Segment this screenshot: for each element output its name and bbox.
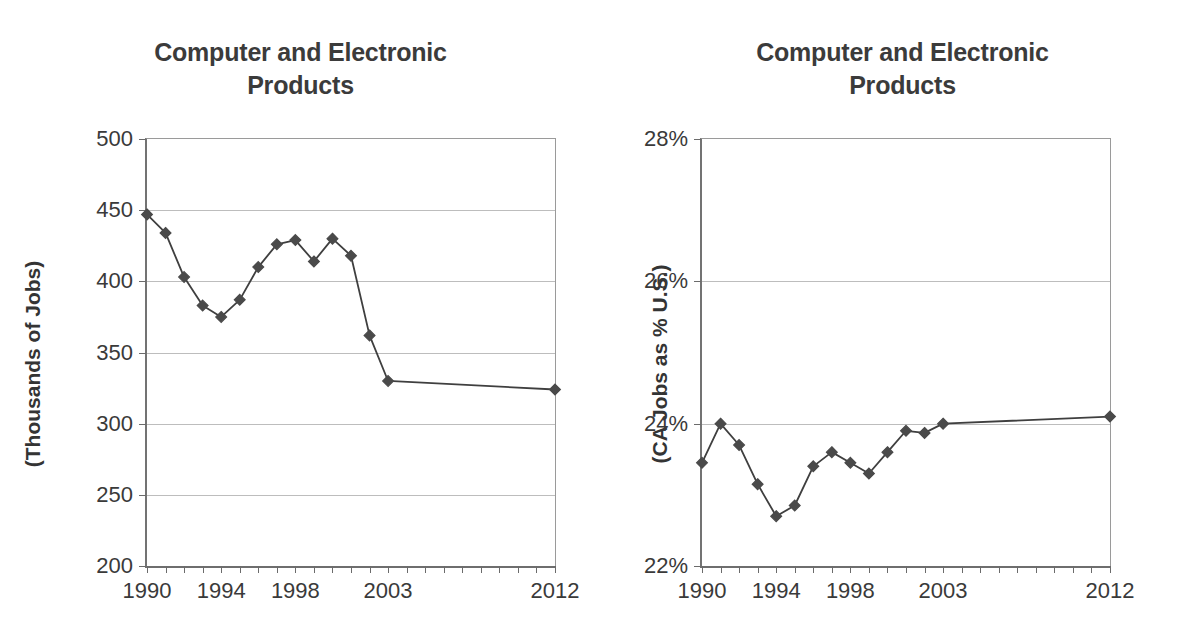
- x-axis-tick: [332, 566, 333, 573]
- x-axis-tick: [444, 566, 445, 573]
- chart-title-share-line2: Products: [602, 69, 1203, 102]
- x-axis-tick: [832, 566, 833, 573]
- x-axis-tick: [499, 566, 500, 573]
- y-axis-tick-label: 26%: [644, 270, 688, 292]
- y-axis-tick: [139, 281, 146, 282]
- chart-title-jobs-line2: Products: [0, 69, 601, 102]
- data-point-marker: [1105, 411, 1116, 422]
- y-axis-tick-label: 22%: [644, 555, 688, 577]
- x-axis-tick: [277, 566, 278, 573]
- x-axis-tick: [221, 566, 222, 573]
- x-axis-tick: [1054, 566, 1055, 573]
- data-point-marker: [919, 428, 930, 439]
- y-axis-tick: [694, 424, 701, 425]
- x-axis-tick: [813, 566, 814, 573]
- x-axis-tick: [702, 566, 703, 573]
- x-axis-tick-label: 1994: [197, 580, 246, 602]
- x-axis-tick: [258, 566, 259, 573]
- x-axis-tick: [351, 566, 352, 573]
- x-axis-tick: [407, 566, 408, 573]
- chart-title-share: Computer and Electronic Products: [602, 36, 1203, 102]
- data-series-share: [702, 139, 1110, 566]
- data-point-marker: [179, 272, 190, 283]
- x-axis-tick: [147, 566, 148, 573]
- x-axis-tick: [240, 566, 241, 573]
- data-point-marker: [771, 511, 782, 522]
- y-axis-tick-label: 300: [96, 413, 133, 435]
- x-axis-tick: [1110, 566, 1111, 573]
- x-axis-tick: [887, 566, 888, 573]
- y-axis-tick-label: 400: [96, 270, 133, 292]
- x-axis-tick: [462, 566, 463, 573]
- x-axis-tick: [388, 566, 389, 573]
- x-axis-tick: [776, 566, 777, 573]
- x-axis-tick-label: 2003: [919, 580, 968, 602]
- y-axis-tick: [139, 424, 146, 425]
- x-axis-tick: [555, 566, 556, 573]
- x-axis-tick: [1091, 566, 1092, 573]
- y-axis-tick-label: 350: [96, 342, 133, 364]
- x-axis-tick: [943, 566, 944, 573]
- y-axis-tick-label: 24%: [644, 413, 688, 435]
- figure-page: Computer and Electronic Products (Thousa…: [0, 0, 1203, 638]
- y-axis-tick: [694, 566, 701, 567]
- x-axis-tick: [536, 566, 537, 573]
- y-axis-tick-label: 250: [96, 484, 133, 506]
- data-point-marker: [938, 418, 949, 429]
- x-axis-tick: [184, 566, 185, 573]
- x-axis-tick: [166, 566, 167, 573]
- data-point-marker: [697, 457, 708, 468]
- x-axis-tick: [739, 566, 740, 573]
- data-point-marker: [550, 384, 561, 395]
- chart-title-jobs: Computer and Electronic Products: [0, 36, 601, 102]
- y-axis-tick: [139, 353, 146, 354]
- x-axis-tick: [795, 566, 796, 573]
- plot-area-share: 22%24%26%28%19901994199820032012: [700, 138, 1111, 568]
- y-axis-label-jobs: (Thousands of Jobs): [21, 234, 45, 494]
- data-point-marker: [383, 376, 394, 387]
- y-axis-label-share: (CA Jobs as % U.S.): [648, 214, 672, 514]
- y-axis-tick-label: 450: [96, 199, 133, 221]
- x-axis-tick: [962, 566, 963, 573]
- x-axis-tick: [425, 566, 426, 573]
- y-axis-tick-label: 500: [96, 128, 133, 150]
- x-axis-tick: [1073, 566, 1074, 573]
- x-axis-tick: [295, 566, 296, 573]
- chart-title-jobs-line1: Computer and Electronic: [0, 36, 601, 69]
- x-axis-tick: [481, 566, 482, 573]
- data-point-marker: [197, 300, 208, 311]
- data-point-marker: [752, 479, 763, 490]
- x-axis-tick-label: 1994: [752, 580, 801, 602]
- plot-area-jobs: 2002503003504004505001990199419982003201…: [145, 138, 556, 568]
- y-axis-tick-label: 200: [96, 555, 133, 577]
- x-axis-tick: [850, 566, 851, 573]
- x-axis-tick: [203, 566, 204, 573]
- chart-panel-jobs: Computer and Electronic Products (Thousa…: [0, 0, 601, 638]
- x-axis-tick-label: 2003: [364, 580, 413, 602]
- y-axis-tick: [139, 566, 146, 567]
- x-axis-tick-label: 2012: [531, 580, 580, 602]
- x-axis-tick: [758, 566, 759, 573]
- series-line: [147, 214, 555, 389]
- x-axis-tick: [1036, 566, 1037, 573]
- x-axis-tick: [314, 566, 315, 573]
- data-point-marker: [789, 500, 800, 511]
- x-axis-tick: [518, 566, 519, 573]
- x-axis-tick: [906, 566, 907, 573]
- x-axis-tick: [721, 566, 722, 573]
- x-axis-tick: [370, 566, 371, 573]
- x-axis-tick: [980, 566, 981, 573]
- x-axis-tick: [1017, 566, 1018, 573]
- x-axis-tick-label: 1998: [271, 580, 320, 602]
- x-axis-tick: [869, 566, 870, 573]
- x-axis-tick-label: 1990: [123, 580, 172, 602]
- data-series-jobs: [147, 139, 555, 566]
- x-axis-tick-label: 2012: [1086, 580, 1135, 602]
- chart-title-share-line1: Computer and Electronic: [602, 36, 1203, 69]
- data-point-marker: [845, 457, 856, 468]
- x-axis-tick-label: 1990: [678, 580, 727, 602]
- chart-panel-share: Computer and Electronic Products (CA Job…: [602, 0, 1203, 638]
- x-axis-tick: [999, 566, 1000, 573]
- y-axis-tick: [139, 139, 146, 140]
- y-axis-tick-label: 28%: [644, 128, 688, 150]
